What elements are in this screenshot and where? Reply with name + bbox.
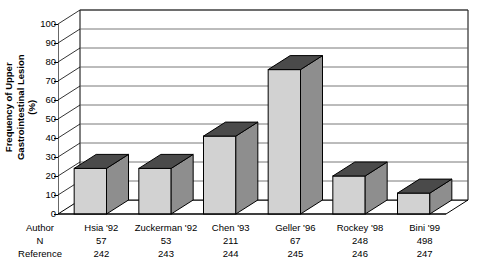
label-cell-reference-6: 247 [385, 248, 465, 259]
gridline-connector [58, 10, 80, 24]
label-cell-author-6: Bini '99 [385, 222, 465, 233]
gridline-connector [58, 29, 80, 43]
label-row-n: N575321167248498 [0, 235, 481, 249]
bar-right-face [236, 122, 258, 214]
y-tick-label: 60 [30, 95, 56, 105]
bar-right-face [301, 56, 323, 214]
y-tick-label: 40 [30, 133, 56, 143]
label-row-reference: Reference242243244245246247 [0, 248, 481, 262]
y-tick-label: 30 [30, 152, 56, 162]
category-label-table: AuthorHsia '92Zuckerman '92Chen '93Gelle… [0, 222, 481, 267]
bar-3 [204, 122, 258, 214]
bar-front-face [74, 168, 106, 214]
bar-front-face [268, 70, 300, 214]
y-tick-label: 20 [30, 171, 56, 181]
bar-front-face [398, 193, 430, 214]
y-tick-label: 80 [30, 57, 56, 67]
bar-2 [139, 154, 193, 214]
y-tick-label: 70 [30, 76, 56, 86]
bar-chart-svg [58, 8, 470, 220]
y-tick-label: 10 [30, 190, 56, 200]
y-tick-label: 90 [30, 38, 56, 48]
y-tick-label: 0 [30, 209, 56, 219]
y-tick-label: 100 [30, 19, 56, 29]
bar-1 [74, 154, 128, 214]
label-cell-n-6: 498 [385, 235, 465, 246]
bar-4 [268, 56, 322, 214]
bar-front-face [139, 168, 171, 214]
gridline-connector [58, 105, 80, 119]
gridline-connector [58, 48, 80, 62]
plot-area [58, 8, 470, 220]
bar-front-face [204, 136, 236, 214]
gridline-connector [58, 86, 80, 100]
y-axis-title-line-2: Gastrointestinal Lesion [14, 55, 26, 161]
gridline-connector [58, 143, 80, 157]
chart-figure: Frequency of Upper Gastrointestinal Lesi… [0, 0, 481, 267]
gridline-connector [58, 124, 80, 138]
gridline-connector [58, 67, 80, 81]
y-axis-title-line-1: Frequency of Upper [3, 55, 15, 161]
bar-front-face [333, 176, 365, 214]
y-tick-label: 50 [30, 114, 56, 124]
label-row-author: AuthorHsia '92Zuckerman '92Chen '93Gelle… [0, 222, 481, 236]
